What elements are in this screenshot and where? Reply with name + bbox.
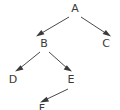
graph-diagram: A B C D E F — [0, 0, 120, 110]
edge-a-b-line — [40, 17, 69, 34]
edge-e-f — [40, 89, 68, 103]
edge-b-e — [49, 52, 72, 72]
edge-b-d-line — [19, 52, 40, 69]
edge-a-b-arrowhead — [36, 30, 45, 36]
node-f-label: F — [39, 102, 45, 110]
edge-a-c — [81, 17, 111, 37]
edge-a-c-line — [81, 17, 107, 34]
edge-b-d — [15, 52, 40, 72]
edge-b-e-line — [49, 52, 68, 69]
graph-canvas: A B C D E F — [0, 0, 120, 110]
edges-layer — [15, 17, 111, 103]
edge-a-b — [36, 17, 69, 37]
node-d-label: D — [9, 73, 17, 86]
node-a-label: A — [71, 2, 79, 15]
nodes-layer: A B C D E F — [9, 2, 110, 110]
edge-e-f-line — [45, 89, 68, 100]
node-b-label: B — [40, 37, 48, 50]
node-c-label: C — [102, 37, 110, 50]
edge-a-c-arrowhead — [103, 30, 111, 37]
node-e-label: E — [68, 73, 75, 86]
